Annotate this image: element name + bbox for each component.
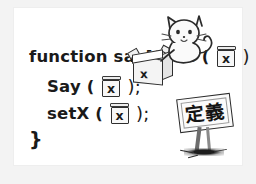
code-line-1-suffix: ) { <box>243 46 256 67</box>
code-line-2: Say ( x ); <box>47 76 141 97</box>
box-glyph: x <box>102 80 121 97</box>
illustration-canvas: function sayMove ( x ) { Say ( x ); <box>0 0 256 184</box>
code-line-3-prefix: setX ( <box>47 104 103 123</box>
code-line-3: setX ( x ); <box>47 103 150 124</box>
code-line-2-prefix: Say ( <box>47 77 95 96</box>
code-line-4: } <box>29 128 43 150</box>
definition-signboard: 定義 <box>174 96 238 164</box>
cat-icon <box>158 12 220 68</box>
box-glyph: x <box>110 107 129 124</box>
illustration-card: function sayMove ( x ) { Say ( x ); <box>14 8 242 165</box>
code-line-3-suffix: ); <box>136 103 150 124</box>
crate-glyph: x <box>140 67 149 81</box>
parameter-box-icon: x <box>102 76 121 97</box>
parameter-box-icon: x <box>110 103 129 124</box>
